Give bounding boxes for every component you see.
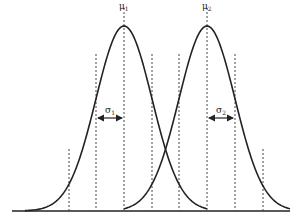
diagram-canvas: μ1 μ2 σ1 σ2 [0, 0, 295, 221]
sigma1-label: σ1 [105, 105, 115, 116]
mu1-label: μ1 [119, 1, 129, 12]
sigma-guide-lines [69, 8, 263, 211]
gaussian-diagram: μ1 μ2 σ1 σ2 [0, 0, 295, 221]
sigma2-label: σ2 [216, 105, 226, 116]
mu2-label: μ2 [202, 1, 212, 12]
